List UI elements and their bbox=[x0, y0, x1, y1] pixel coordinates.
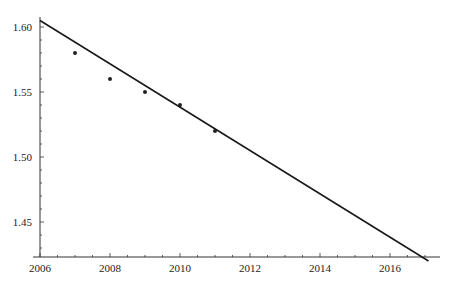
x-tick-label: 2010 bbox=[169, 262, 192, 274]
y-tick-label: 1.55 bbox=[13, 86, 33, 98]
axes bbox=[33, 17, 440, 257]
x-tick-label: 2008 bbox=[99, 262, 122, 274]
tick-labels: 2006200820102012201420161.451.501.551.60 bbox=[13, 21, 402, 274]
x-tick-label: 2006 bbox=[29, 262, 52, 274]
x-tick-label: 2016 bbox=[379, 262, 402, 274]
data-point bbox=[143, 90, 147, 94]
data-point bbox=[108, 77, 112, 81]
y-tick-label: 1.45 bbox=[13, 216, 33, 228]
data-series bbox=[40, 21, 429, 262]
y-tick-label: 1.60 bbox=[13, 21, 33, 33]
data-point bbox=[73, 51, 77, 55]
fit-line bbox=[40, 21, 429, 262]
x-tick-label: 2012 bbox=[239, 262, 261, 274]
chart-container: 2006200820102012201420161.451.501.551.60 bbox=[0, 0, 452, 286]
scatter-plot-with-fit-line: 2006200820102012201420161.451.501.551.60 bbox=[0, 0, 452, 286]
y-tick-label: 1.50 bbox=[13, 151, 33, 163]
x-tick-label: 2014 bbox=[309, 262, 332, 274]
